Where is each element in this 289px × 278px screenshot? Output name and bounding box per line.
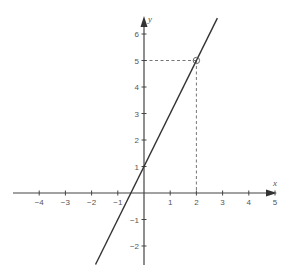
y-tick-label: 5: [135, 57, 140, 66]
y-tick-label: 6: [135, 30, 140, 39]
y-axis-arrow-icon: [141, 16, 148, 27]
x-tick-label: 3: [220, 198, 225, 207]
x-tick-label: 1: [168, 198, 173, 207]
y-tick-label: 3: [135, 110, 140, 119]
x-tick-label: 2: [194, 198, 199, 207]
y-tick-label: −1: [130, 216, 140, 225]
y-tick-label: 4: [135, 83, 140, 92]
x-tick-label: −3: [61, 198, 71, 207]
y-axis-label: y: [147, 14, 152, 24]
x-tick-label: −2: [87, 198, 97, 207]
coordinate-plane: x y −4−3−2−112345 −2−1123456: [0, 0, 289, 278]
y-tick-label: −2: [130, 242, 140, 251]
x-tick-label: 4: [247, 198, 252, 207]
y-tick-label: 1: [135, 163, 140, 172]
x-axis-label: x: [272, 178, 277, 188]
function-line: [96, 18, 218, 264]
x-tick-label: 5: [273, 198, 278, 207]
series-line: [96, 18, 218, 264]
x-tick-label: −4: [35, 198, 45, 207]
dashed-guides: [144, 61, 196, 194]
y-tick-label: 2: [135, 136, 140, 145]
x-tick-label: −1: [113, 198, 123, 207]
